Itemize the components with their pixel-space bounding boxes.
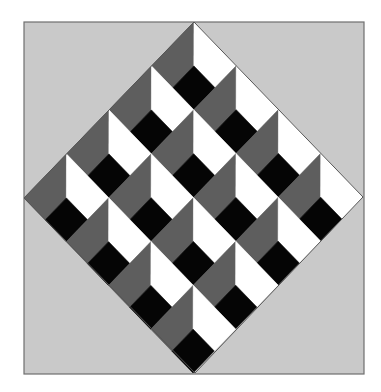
tumbling-blocks-figure [0, 0, 381, 392]
